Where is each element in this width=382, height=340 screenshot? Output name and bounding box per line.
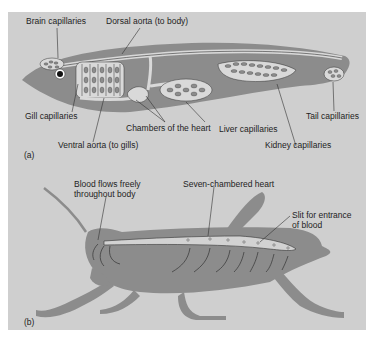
label-slit-line1: Slit for entrance [292, 210, 352, 220]
label-chambers-of-heart: Chambers of the heart [126, 123, 211, 133]
label-dorsal-aorta: Dorsal aorta (to body) [106, 16, 188, 26]
label-ventral-aorta: Ventral aorta (to gills) [58, 140, 138, 150]
brain-capillaries-shape [40, 58, 64, 70]
label-liver-capillaries: Liver capillaries [219, 124, 278, 134]
label-brain-capillaries: Brain capillaries [26, 16, 86, 26]
diagram-drawing [0, 0, 382, 340]
label-tail-capillaries: Tail capillaries [306, 111, 359, 121]
grasshopper-body [36, 188, 344, 320]
label-seven-chambered-heart: Seven-chambered heart [183, 179, 274, 189]
label-kidney-capillaries: Kidney capillaries [265, 140, 331, 150]
label-gill-capillaries: Gill capillaries [25, 111, 77, 121]
label-slit-line2: of blood [292, 220, 322, 230]
liver-capillaries-shape [160, 79, 212, 101]
label-blood-flows-line1: Blood flows freely [74, 179, 141, 189]
gill-capillaries-shape [76, 62, 124, 98]
label-blood-flows-line2: throughout body [74, 189, 135, 199]
panel-a-tag: (a) [24, 150, 34, 160]
panel-b-tag: (b) [24, 317, 34, 327]
tail-capillaries-shape [324, 67, 344, 81]
